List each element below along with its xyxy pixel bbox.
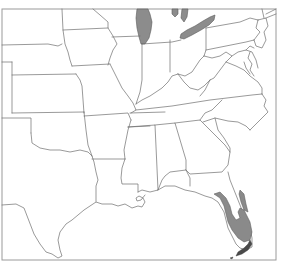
range-map — [0, 0, 285, 266]
map-canvas — [0, 0, 285, 266]
